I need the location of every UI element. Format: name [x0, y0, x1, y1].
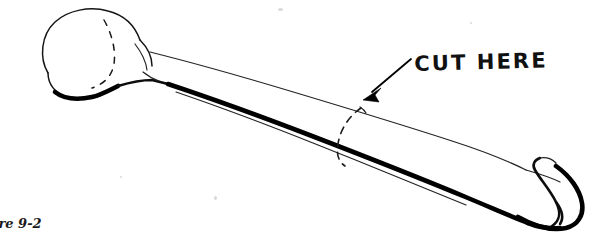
cut-here-arrow	[363, 59, 411, 102]
scan-speck	[214, 196, 217, 200]
scan-speck	[470, 22, 472, 24]
scan-speck	[278, 8, 283, 11]
scan-speck	[120, 176, 122, 178]
bone-body-fill	[61, 12, 581, 227]
figure-caption: ure 9-2	[0, 216, 42, 231]
cut-here-label: CUT HERE	[414, 48, 548, 76]
bone-illustration	[0, 0, 602, 233]
figure-container: CUT HERE ure 9-2	[0, 0, 602, 233]
